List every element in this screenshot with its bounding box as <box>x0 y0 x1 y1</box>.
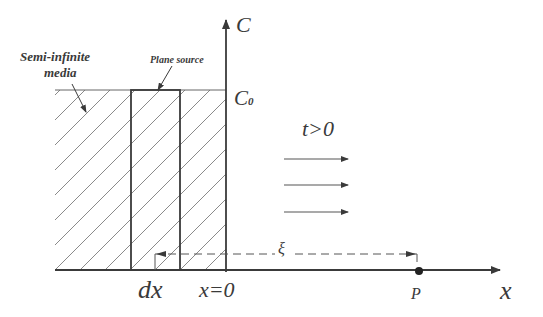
diagram-graphics <box>0 0 543 317</box>
c-axis-label: C <box>236 14 251 36</box>
semi-infinite-label-line1: Semi-infinite <box>20 50 90 63</box>
point-p-label: P <box>411 286 421 302</box>
time-label: t>0 <box>302 118 334 140</box>
xi-label: ξ <box>278 241 285 257</box>
c0-subscript: 0 <box>248 95 254 107</box>
semi-infinite-label-line2: media <box>44 66 77 79</box>
c0-label: C0 <box>234 88 254 109</box>
plane-source-label: Plane source <box>150 55 204 65</box>
dx-label: dx <box>138 277 163 303</box>
x-zero-label: x=0 <box>199 279 235 301</box>
plane-source-leader <box>158 66 172 90</box>
x-axis-label: x <box>500 278 512 304</box>
plane-source-strip <box>131 90 180 270</box>
semi-infinite-leader <box>72 84 86 112</box>
diffusion-diagram: Semi-infinite media Plane source C C0 t>… <box>0 0 543 317</box>
flow-arrows <box>284 159 348 212</box>
point-p-marker <box>415 267 423 275</box>
xi-distance-marker <box>155 251 417 270</box>
c0-main: C <box>234 86 248 110</box>
